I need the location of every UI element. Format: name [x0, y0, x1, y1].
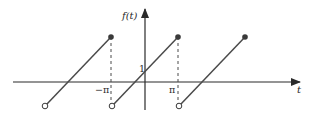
tick-label-neg-pi: −π — [95, 84, 109, 95]
open-endpoint — [176, 103, 182, 109]
open-endpoint — [42, 103, 48, 109]
x-axis-label: t — [297, 84, 302, 95]
filled-endpoint — [108, 34, 114, 40]
segment-3 — [176, 34, 248, 109]
filled-endpoint — [242, 34, 248, 40]
y-axis-label: f(t) — [121, 10, 138, 21]
tick-label-pi: π — [169, 84, 175, 95]
segment-1 — [42, 34, 114, 109]
sawtooth-function-graph: f(t) t −π π 1 — [0, 0, 324, 123]
open-endpoint — [109, 103, 115, 109]
filled-endpoint — [175, 34, 181, 40]
tick-label-one: 1 — [139, 63, 145, 74]
